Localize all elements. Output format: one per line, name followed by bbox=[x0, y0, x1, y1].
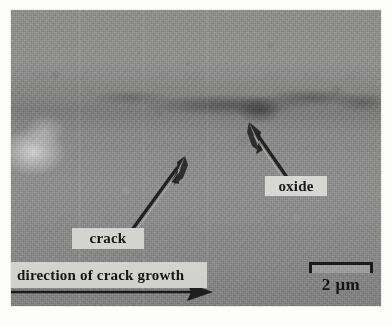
page-bleed-bottom bbox=[0, 309, 392, 323]
crack-label: crack bbox=[72, 228, 144, 249]
direction-of-crack-growth-banner: direction of crack growth bbox=[11, 262, 207, 288]
oxide-label: oxide bbox=[265, 176, 327, 196]
scanned-page: crack oxide direction of crack growth 2 … bbox=[0, 0, 392, 327]
scale-bar: 2 μm bbox=[309, 262, 375, 304]
micrograph-plate: crack oxide direction of crack growth 2 … bbox=[11, 10, 381, 306]
scale-bar-caption: 2 μm bbox=[309, 275, 373, 295]
scale-bar-bracket bbox=[309, 262, 373, 273]
